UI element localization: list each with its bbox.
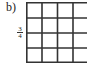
grid-lines: [26, 2, 87, 63]
square-grid: [26, 2, 87, 63]
problem-label: b): [6, 1, 16, 13]
fraction-denominator: 4: [18, 32, 22, 40]
fraction-label: 3 4: [17, 26, 23, 39]
